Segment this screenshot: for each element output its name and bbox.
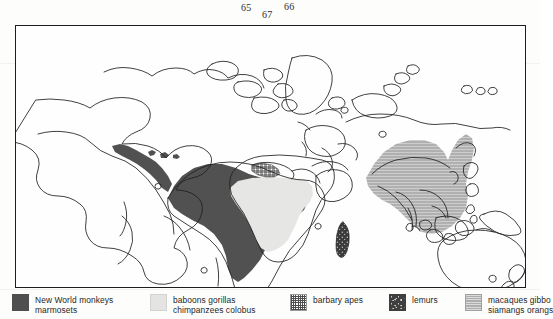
legend-label-line1: lemurs [412, 295, 438, 305]
legend-swatch-african-apes [150, 294, 167, 311]
legend-item-african-apes: baboons gorillas chimpanzees colobus [150, 294, 255, 315]
legend-label-new-world-monkeys: New World monkeys marmosets [35, 294, 113, 315]
legend-item-lemurs: lemurs [389, 294, 438, 311]
legend-swatch-new-world-monkeys [12, 294, 29, 311]
legend-label-line1: macaques gibbo [488, 295, 551, 305]
legend-label-line2: chimpanzees colobus [173, 305, 255, 315]
legend-label-line2: siamangs orangs [488, 305, 553, 315]
legend-swatch-lemurs [389, 294, 406, 311]
folio-number-67: 67 [262, 9, 272, 20]
legend-label-lemurs: lemurs [412, 294, 438, 305]
legend-label-line1: baboons gorillas [173, 295, 236, 305]
world-map-figure [15, 25, 526, 288]
legend-item-new-world-monkeys: New World monkeys marmosets [12, 294, 113, 315]
legend-swatch-asian-primates [465, 294, 482, 311]
folio-numbers: 65 67 66 [0, 0, 540, 24]
folio-number-66: 66 [284, 1, 294, 12]
legend-label-line1: barbary apes [313, 295, 363, 305]
legend-item-barbary-apes: barbary apes [290, 294, 363, 311]
legend-item-asian-primates: macaques gibbo siamangs orangs [465, 294, 553, 315]
legend-label-asian-primates: macaques gibbo siamangs orangs [488, 294, 553, 315]
legend-label-barbary-apes: barbary apes [313, 294, 363, 305]
map-legend: New World monkeys marmosets baboons gori… [12, 294, 540, 319]
legend-label-african-apes: baboons gorillas chimpanzees colobus [173, 294, 255, 315]
folio-number-65: 65 [241, 2, 251, 13]
legend-swatch-barbary-apes [290, 294, 307, 311]
legend-label-line2: marmosets [35, 305, 113, 315]
legend-label-line1: New World monkeys [35, 295, 113, 305]
